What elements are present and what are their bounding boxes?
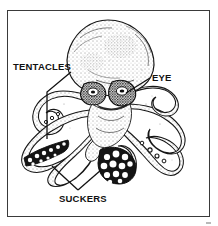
octopus-web (88, 104, 132, 148)
label-tentacles: TENTACLES (13, 61, 71, 72)
scan-artifact (206, 222, 211, 224)
figure-root: TENTACLES EYE SUCKERS (0, 0, 218, 226)
label-suckers: SUCKERS (59, 193, 107, 204)
octopus-illustration (0, 0, 218, 226)
eye-right (109, 80, 136, 106)
eye-left (81, 82, 106, 105)
label-eye: EYE (152, 72, 172, 83)
